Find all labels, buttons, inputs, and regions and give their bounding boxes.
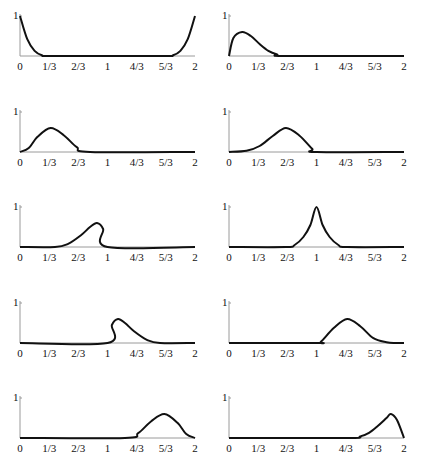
x-tick-label: 2/3 [71,348,85,359]
plot-panel-10: 101/32/314/35/32 [209,388,414,465]
plot-canvas [0,102,205,197]
x-tick-label: 1/3 [251,61,265,72]
x-tick-label: 0 [226,443,232,454]
x-tick-label: 1 [314,252,320,263]
x-tick-label: 0 [17,443,23,454]
x-tick-label: 5/3 [368,348,382,359]
x-tick-label: 2 [192,348,198,359]
x-tick-label: 0 [226,157,232,168]
plot-panel-4: 101/32/314/35/32 [209,102,414,197]
y-tick-label: 1 [222,10,228,21]
curve-line [229,414,404,438]
y-tick-label: 1 [222,392,228,403]
curve-line [229,128,404,152]
x-tick-label: 1/3 [42,443,56,454]
x-tick-label: 4/3 [130,61,144,72]
plot-canvas [209,6,414,101]
y-tick-label: 1 [222,106,228,117]
x-tick-label: 1 [314,348,320,359]
x-tick-label: 0 [17,348,23,359]
x-tick-label: 1 [105,252,111,263]
x-tick-label: 5/3 [159,348,173,359]
x-tick-label: 1/3 [251,348,265,359]
y-tick-label: 1 [222,297,228,308]
x-tick-label: 2 [192,252,198,263]
x-tick-label: 5/3 [159,443,173,454]
x-tick-label: 2/3 [280,348,294,359]
x-tick-label: 1 [105,443,111,454]
plot-panel-3: 101/32/314/35/32 [0,102,205,197]
x-tick-label: 4/3 [130,252,144,263]
plot-canvas [209,293,414,388]
figure-grid: 101/32/314/35/32101/32/314/35/32101/32/3… [0,0,422,465]
x-tick-label: 2/3 [71,443,85,454]
x-tick-label: 1/3 [42,61,56,72]
x-tick-label: 2/3 [71,157,85,168]
plot-canvas [0,293,205,388]
plot-panel-2: 101/32/314/35/32 [209,6,414,101]
x-tick-label: 4/3 [339,157,353,168]
x-tick-label: 0 [226,61,232,72]
y-tick-label: 1 [13,297,19,308]
curve-line [229,32,404,56]
x-tick-label: 2 [192,443,198,454]
x-tick-label: 2/3 [71,252,85,263]
plot-canvas [209,388,414,465]
x-tick-label: 1/3 [251,157,265,168]
x-tick-label: 4/3 [130,443,144,454]
x-tick-label: 2/3 [71,61,85,72]
x-tick-label: 4/3 [339,61,353,72]
x-tick-label: 4/3 [339,443,353,454]
x-tick-label: 2 [192,157,198,168]
plot-panel-1: 101/32/314/35/32 [0,6,205,101]
x-tick-label: 5/3 [368,443,382,454]
x-tick-label: 1/3 [251,443,265,454]
x-tick-label: 4/3 [130,157,144,168]
x-tick-label: 4/3 [339,252,353,263]
plot-canvas [209,197,414,292]
plot-panel-6: 101/32/314/35/32 [209,197,414,292]
y-tick-label: 1 [13,10,19,21]
x-tick-label: 1 [105,157,111,168]
curve-line [20,128,195,152]
x-tick-label: 2 [401,61,407,72]
x-tick-label: 1/3 [42,348,56,359]
x-tick-label: 1 [105,348,111,359]
x-tick-label: 0 [17,252,23,263]
x-tick-label: 5/3 [159,157,173,168]
plot-panel-9: 101/32/314/35/32 [0,388,205,465]
x-tick-label: 1 [105,61,111,72]
x-tick-label: 4/3 [130,348,144,359]
x-tick-label: 2 [401,252,407,263]
curve-line [20,319,195,344]
y-tick-label: 1 [13,201,19,212]
x-tick-label: 0 [226,252,232,263]
plot-canvas [0,6,205,101]
plot-canvas [0,388,205,465]
plot-panel-5: 101/32/314/35/32 [0,197,205,292]
curve-line [229,207,404,247]
x-tick-label: 1/3 [251,252,265,263]
x-tick-label: 1 [314,443,320,454]
x-tick-label: 4/3 [339,348,353,359]
x-tick-label: 2 [192,61,198,72]
plot-panel-8: 101/32/314/35/32 [209,293,414,388]
plot-panel-7: 101/32/314/35/32 [0,293,205,388]
x-tick-label: 1 [314,61,320,72]
plot-canvas [209,102,414,197]
x-tick-label: 5/3 [368,252,382,263]
x-tick-label: 2/3 [280,443,294,454]
y-tick-label: 1 [13,106,19,117]
x-tick-label: 5/3 [368,61,382,72]
x-tick-label: 2/3 [280,61,294,72]
x-tick-label: 1/3 [42,157,56,168]
x-tick-label: 1/3 [42,252,56,263]
x-tick-label: 2 [401,157,407,168]
curve-line [229,319,404,343]
x-tick-label: 0 [226,348,232,359]
curve-line [20,414,195,438]
x-tick-label: 2/3 [280,252,294,263]
y-tick-label: 1 [222,201,228,212]
y-tick-label: 1 [13,392,19,403]
curve-line [20,16,195,56]
